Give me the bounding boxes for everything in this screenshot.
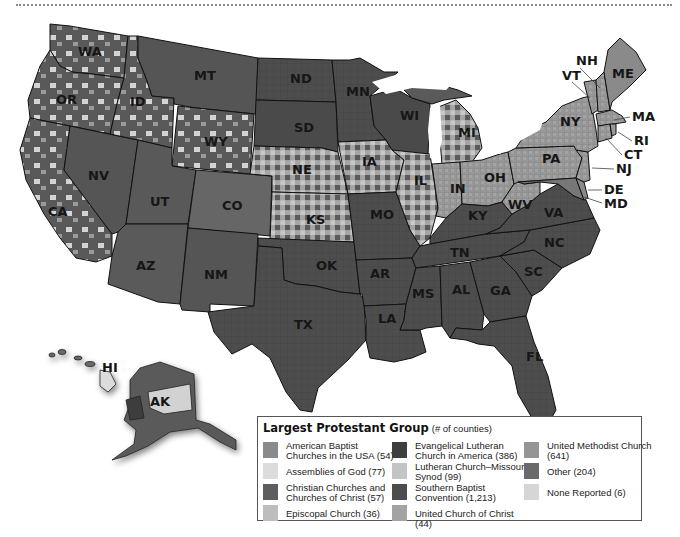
swatch-assemblies-of-god (263, 463, 278, 479)
swatch-american-baptist (263, 442, 278, 458)
label-tn: TN (450, 245, 470, 260)
label-fl: FL (526, 349, 543, 364)
label-va: VA (544, 205, 563, 220)
swatch-episcopal (263, 505, 278, 521)
label-co: CO (222, 198, 243, 213)
label-ma: MA (632, 109, 655, 124)
label-mn: MN (346, 84, 370, 99)
label-mo: MO (370, 207, 394, 222)
label-vt: VT (562, 68, 581, 83)
label-pa: PA (542, 151, 560, 166)
label-nd: ND (290, 71, 312, 86)
label-nm: NM (204, 267, 228, 282)
swatch-christian-churches (263, 484, 278, 500)
label-az: AZ (136, 258, 156, 273)
label-nv: NV (88, 168, 109, 183)
label-me: ME (612, 66, 634, 81)
label-md: MD (604, 196, 628, 211)
label-hi: HI (102, 360, 118, 375)
label-mi: MI (458, 125, 476, 140)
label-wa: WA (78, 44, 102, 59)
legend: Largest Protestant Group (# of counties)… (257, 416, 642, 521)
label-sc: SC (524, 264, 543, 279)
label-nh: NH (576, 53, 598, 68)
swatch-methodist (524, 442, 539, 458)
alaska (112, 362, 236, 460)
label-al: AL (452, 282, 470, 297)
swatch-missouri-synod (392, 463, 407, 479)
swatch-none-reported (524, 484, 539, 500)
label-sd: SD (294, 120, 314, 135)
label-ri: RI (634, 133, 649, 148)
label-nc: NC (544, 235, 564, 250)
label-ut: UT (150, 194, 170, 209)
state-fl (450, 316, 556, 428)
label-de: DE (604, 182, 624, 197)
label-ok: OK (316, 258, 338, 273)
label-ar: AR (370, 266, 390, 281)
label-wy: WY (204, 134, 228, 149)
label-id: ID (130, 94, 146, 109)
label-tx: TX (294, 317, 313, 332)
label-il: IL (414, 173, 427, 188)
label-ms: MS (412, 286, 434, 301)
label-wi: WI (400, 108, 419, 123)
label-oh: OH (484, 170, 506, 185)
label-ny: NY (560, 114, 581, 129)
swatch-ucc (392, 505, 407, 521)
legend-title: Largest Protestant Group (# of counties) (263, 421, 492, 435)
swatch-elca (392, 442, 407, 458)
swatch-other (524, 463, 539, 479)
state-ct (598, 124, 612, 142)
label-or: OR (56, 92, 77, 107)
label-ga: GA (490, 283, 511, 298)
label-ak: AK (150, 394, 171, 409)
label-ks: KS (306, 212, 325, 227)
label-ne: NE (292, 162, 312, 177)
label-ct: CT (624, 147, 643, 162)
label-in: IN (450, 181, 466, 196)
label-ia: IA (362, 154, 377, 169)
lake-michigan (428, 104, 442, 160)
swatch-southern-baptist (392, 484, 407, 500)
label-la: LA (378, 311, 396, 326)
label-wv: WV (508, 197, 532, 212)
label-ca: CA (48, 204, 68, 219)
label-ky: KY (468, 208, 488, 223)
label-mt: MT (194, 68, 216, 83)
label-nj: NJ (616, 161, 632, 176)
